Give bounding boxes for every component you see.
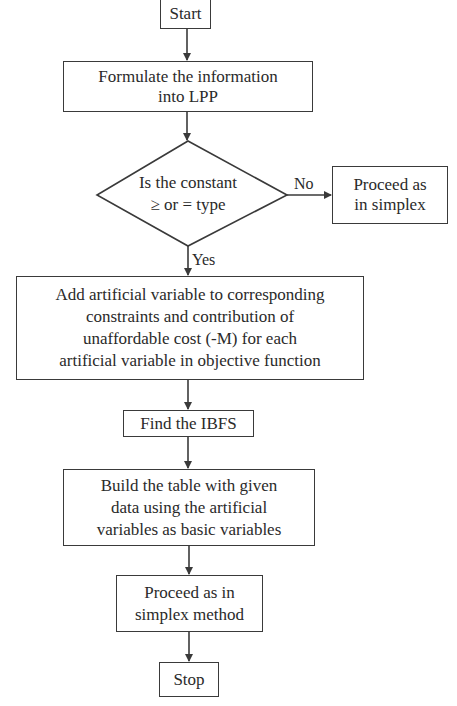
add-artificial-line-4: artificial variable in objective functio…: [59, 350, 321, 372]
add-artificial-line-1: Add artificial variable to corresponding: [55, 284, 324, 306]
proceed-simplex-line-1: Proceed as: [353, 175, 426, 195]
add-artificial-node: Add artificial variable to corresponding…: [16, 276, 364, 380]
build-table-node: Build the table with given data using th…: [63, 469, 315, 546]
add-artificial-line-2: constraints and contribution of: [86, 306, 294, 328]
build-table-line-3: variables as basic variables: [97, 519, 282, 541]
build-table-line-2: data using the artificial: [111, 497, 267, 519]
stop-node: Stop: [159, 662, 219, 697]
stop-label: Stop: [173, 670, 204, 690]
proceed-method-line-2: simplex method: [135, 604, 244, 626]
decision-line-1: Is the constant: [112, 172, 264, 194]
formulate-node: Formulate the information into LPP: [63, 61, 313, 112]
start-node: Start: [160, 0, 211, 29]
proceed-method-node: Proceed as in simplex method: [116, 575, 263, 632]
decision-text: Is the constant ≥ or = type: [112, 172, 264, 216]
find-ibfs-node: Find the IBFS: [123, 410, 254, 437]
edge-label-no: No: [294, 175, 314, 193]
formulate-line-2: into LPP: [158, 87, 218, 107]
start-label: Start: [169, 4, 201, 24]
build-table-line-1: Build the table with given: [101, 475, 278, 497]
proceed-simplex-node: Proceed as in simplex: [332, 166, 448, 224]
proceed-simplex-line-2: in simplex: [354, 195, 425, 215]
decision-line-2: ≥ or = type: [112, 194, 264, 216]
find-ibfs-label: Find the IBFS: [140, 414, 236, 434]
edge-label-yes: Yes: [192, 251, 215, 269]
formulate-line-1: Formulate the information: [98, 67, 277, 87]
proceed-method-line-1: Proceed as in: [144, 582, 235, 604]
add-artificial-line-3: unaffordable cost (-M) for each: [83, 328, 297, 350]
